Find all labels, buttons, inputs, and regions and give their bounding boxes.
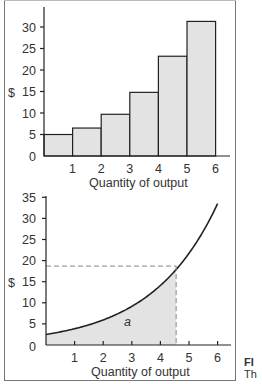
x-tick-label: 2 xyxy=(100,351,107,365)
bar xyxy=(44,135,73,157)
y-tick-label: 10 xyxy=(22,107,36,121)
y-tick-label: 5 xyxy=(29,317,36,331)
shaded-area-a xyxy=(46,270,176,345)
y-tick-label: 25 xyxy=(22,42,36,56)
figure-caption: FI Th xyxy=(244,356,257,380)
bar xyxy=(101,114,130,156)
x-tick-label: 6 xyxy=(214,351,221,365)
x-tick-label: 3 xyxy=(128,351,135,365)
y-tick-label: 20 xyxy=(22,64,36,78)
y-tick-label: 15 xyxy=(22,275,36,289)
x-tick-label: 2 xyxy=(98,162,105,176)
x-tick-label: 1 xyxy=(69,162,76,176)
x-axis-title: Quantity of output xyxy=(91,365,190,379)
y-tick-label: 20 xyxy=(22,254,36,268)
y-tick-label: 5 xyxy=(29,128,36,142)
y-tick-label: 30 xyxy=(22,21,36,35)
bar xyxy=(187,21,216,156)
x-tick-label: 1 xyxy=(71,351,78,365)
y-tick-label: 25 xyxy=(22,233,36,247)
figure-frame: 051015202530123456$Quantity of output 05… xyxy=(0,0,262,384)
x-tick-label: 5 xyxy=(186,351,193,365)
y-tick-label: 0 xyxy=(29,150,36,164)
area-label-a: a xyxy=(124,315,131,329)
x-axis-title: Quantity of output xyxy=(89,176,188,190)
x-tick-label: 6 xyxy=(212,162,219,176)
y-tick-label: 30 xyxy=(22,212,36,226)
y-tick-label: 15 xyxy=(22,85,36,99)
y-axis-title: $ xyxy=(8,86,15,100)
bar xyxy=(158,56,187,156)
x-tick-label: 4 xyxy=(155,162,162,176)
bar-chart: 051015202530123456$Quantity of output xyxy=(8,7,230,190)
x-tick-label: 3 xyxy=(126,162,133,176)
y-tick-label: 0 xyxy=(29,340,36,354)
x-tick-label: 4 xyxy=(157,351,164,365)
x-tick-label: 5 xyxy=(184,162,191,176)
bar xyxy=(130,92,159,156)
area-chart: 05101520253035123456$Quantity of outputa xyxy=(8,191,231,379)
y-tick-label: 35 xyxy=(22,191,36,205)
caption-line-1: FI xyxy=(244,356,257,368)
y-tick-label: 10 xyxy=(22,296,36,310)
y-axis-title: $ xyxy=(8,276,15,290)
bar xyxy=(73,128,102,156)
caption-line-2: Th xyxy=(244,368,257,380)
